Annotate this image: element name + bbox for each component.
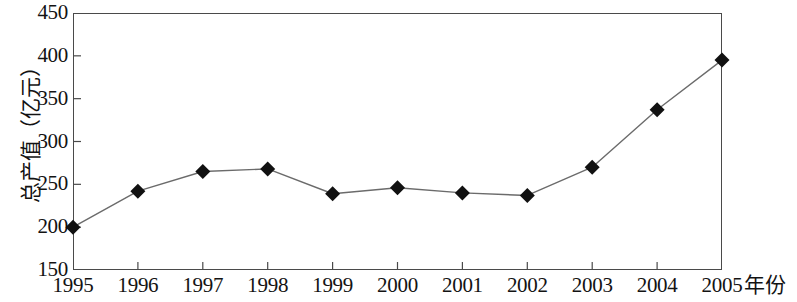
y-axis-tick-label: 450 [2,2,68,23]
x-axis-tick-label: 2001 [427,273,497,297]
y-axis-tick-label: 250 [2,173,68,194]
y-axis-tick-labels: 150200250300350400450 [0,0,68,302]
y-axis-tick-label: 200 [2,216,68,237]
line-chart: 总产值（亿元） 150200250300350400450 1995199619… [0,0,797,302]
x-axis-tick-label: 1998 [233,273,303,297]
x-axis-tick-label: 1995 [38,273,108,297]
x-axis-tick-label: 2002 [492,273,562,297]
x-axis-tick-label: 1996 [103,273,173,297]
plot-area [73,13,722,270]
x-axis-tick-label: 2000 [363,273,433,297]
x-axis-tick-label: 1999 [298,273,368,297]
x-axis-tick-label: 2004 [622,273,692,297]
y-axis-tick-label: 400 [2,45,68,66]
x-axis-tick-labels: 1995199619971998199920002001200220032004… [0,273,797,302]
x-axis-title: 年份 [744,273,786,297]
x-axis-tick-label: 2003 [557,273,627,297]
y-axis-tick-label: 300 [2,131,68,152]
y-axis-tick-label: 350 [2,88,68,109]
x-axis-tick-label: 1997 [168,273,238,297]
